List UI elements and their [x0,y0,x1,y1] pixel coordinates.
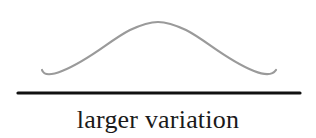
bell-curve [42,22,276,74]
diagram-caption: larger variation [0,105,316,135]
larger-variation-diagram: larger variation [0,0,316,138]
